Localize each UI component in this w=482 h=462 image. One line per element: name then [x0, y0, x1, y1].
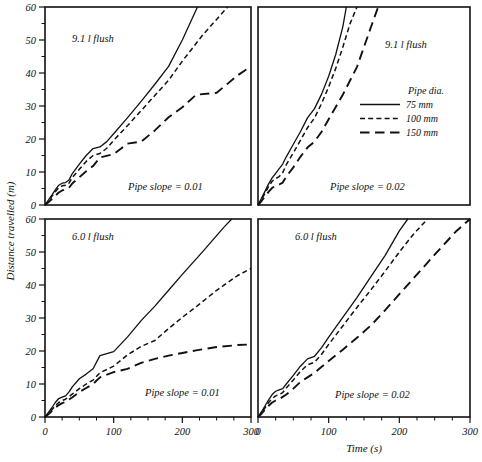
x-axis-title: Time (s) — [346, 442, 382, 455]
panel-flush-label-bottom-right: 6.0 l flush — [295, 231, 337, 242]
legend-title: Pipe dia. — [407, 85, 444, 96]
x-tick-label-bottom-left-0: 0 — [42, 426, 48, 437]
curve-top-right-75-mm — [258, 7, 346, 205]
y-tick-label-top-left-20: 20 — [26, 134, 37, 145]
y-tick-label-bottom-left-0: 0 — [31, 412, 37, 423]
panel-slope-label-top-left: Pipe slope = 0.01 — [127, 181, 203, 192]
y-tick-label-top-left-50: 50 — [26, 35, 37, 46]
x-tick-label-bottom-right-0: 0 — [255, 426, 261, 437]
panel-slope-label-bottom-left: Pipe slope = 0.01 — [144, 387, 220, 398]
y-tick-label-top-left-0: 0 — [31, 200, 37, 211]
panel-flush-label-top-left: 9.1 l flush — [72, 33, 114, 44]
curve-top-right-150-mm — [258, 7, 378, 205]
y-tick-label-bottom-left-30: 30 — [25, 313, 37, 324]
distance-travelled-vs-time-chart: 0102030405060010203040506001002003000100… — [0, 0, 482, 462]
legend-label-150-mm: 150 mm — [406, 127, 438, 138]
panel-frame-top-right — [258, 7, 470, 205]
y-tick-label-bottom-left-60: 60 — [26, 214, 37, 225]
panel-frame-bottom-right — [258, 219, 470, 417]
y-tick-label-bottom-left-40: 40 — [26, 280, 37, 291]
y-tick-label-top-left-60: 60 — [26, 2, 37, 13]
panel-slope-label-top-right: Pipe slope = 0.02 — [329, 181, 405, 192]
y-tick-label-bottom-left-20: 20 — [26, 346, 37, 357]
y-tick-label-top-left-10: 10 — [26, 167, 37, 178]
y-axis-title: Distance travelled (m) — [4, 181, 17, 281]
y-tick-label-bottom-left-10: 10 — [26, 379, 37, 390]
legend-label-75-mm: 75 mm — [406, 99, 433, 110]
x-tick-label-bottom-right-100: 100 — [321, 426, 338, 437]
y-tick-label-top-left-40: 40 — [26, 68, 37, 79]
curve-top-right-100-mm — [258, 7, 357, 205]
curve-top-left-75-mm — [45, 7, 197, 205]
curve-bottom-left-150-mm — [45, 344, 251, 417]
y-tick-label-top-left-30: 30 — [25, 101, 37, 112]
legend-label-100-mm: 100 mm — [406, 113, 438, 124]
curve-bottom-right-75-mm — [258, 219, 408, 417]
x-tick-label-bottom-right-300: 300 — [461, 426, 479, 437]
x-tick-label-bottom-left-100: 100 — [106, 426, 123, 437]
panel-flush-label-bottom-left: 6.0 l flush — [72, 231, 114, 242]
chart-figure: 0102030405060010203040506001002003000100… — [0, 0, 482, 462]
y-tick-label-bottom-left-50: 50 — [26, 247, 37, 258]
x-tick-label-bottom-left-200: 200 — [174, 426, 191, 437]
curve-bottom-right-150-mm — [258, 219, 470, 417]
panel-flush-label-top-right: 9.1 l flush — [385, 39, 427, 50]
x-tick-label-bottom-right-200: 200 — [391, 426, 408, 437]
panel-slope-label-bottom-right: Pipe slope = 0.02 — [334, 389, 410, 400]
